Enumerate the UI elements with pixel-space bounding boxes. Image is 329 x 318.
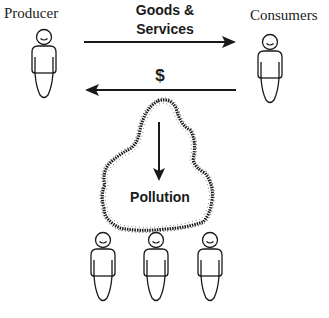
third-party-person-icon-3: [198, 233, 222, 301]
producer-person-icon: [32, 30, 56, 98]
goods-services-label: Goods & Services: [115, 1, 215, 39]
money-label: $: [145, 66, 175, 86]
consumers-label: Consumers: [250, 7, 318, 24]
goods-label-line2: Services: [115, 20, 215, 39]
third-party-person-icon-2: [144, 233, 168, 301]
producer-label: Producer: [4, 5, 58, 22]
third-party-person-icon-1: [91, 233, 115, 301]
diagram-canvas: [0, 0, 329, 318]
goods-label-line1: Goods &: [115, 1, 215, 20]
pollution-label: Pollution: [120, 189, 200, 205]
consumer-person-icon: [258, 35, 282, 103]
pollution-cloud: [100, 98, 214, 232]
